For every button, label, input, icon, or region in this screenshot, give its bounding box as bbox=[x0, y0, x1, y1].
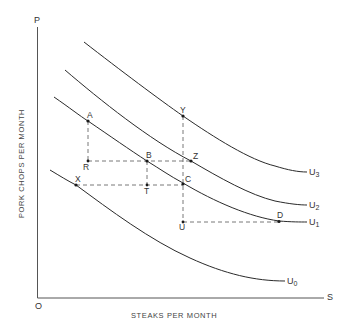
y-axis-end-label: P bbox=[34, 16, 40, 25]
x-axis-title: STEAKS PER MONTH bbox=[131, 312, 217, 320]
y-axis-title: PORK CHOPS PER MONTH bbox=[18, 109, 26, 218]
label-point-b: B bbox=[146, 151, 152, 160]
label-point-a: A bbox=[87, 111, 93, 120]
guide-lines bbox=[76, 116, 279, 222]
curve-label-u0: U0 bbox=[287, 277, 297, 287]
point-d bbox=[277, 220, 280, 223]
label-point-y: Y bbox=[180, 106, 186, 115]
label-point-r: R bbox=[83, 163, 89, 172]
curve-label-u1: U1 bbox=[309, 218, 319, 228]
origin-label: O bbox=[35, 302, 42, 311]
indifference-curve-diagram: P S O STEAKS PER MONTH PORK CHOPS PER MO… bbox=[0, 0, 349, 327]
label-point-t: T bbox=[144, 187, 149, 196]
points bbox=[74, 114, 280, 223]
label-point-u: U bbox=[179, 223, 185, 232]
curve-label-u2: U2 bbox=[309, 201, 319, 211]
curve-u0 bbox=[50, 170, 285, 281]
label-point-x: X bbox=[75, 175, 81, 184]
label-point-d: D bbox=[277, 211, 283, 220]
curve-label-u3: U3 bbox=[309, 168, 319, 178]
label-point-c: C bbox=[185, 175, 191, 184]
x-axis-end-label: S bbox=[327, 293, 333, 302]
label-point-z: Z bbox=[193, 152, 198, 161]
